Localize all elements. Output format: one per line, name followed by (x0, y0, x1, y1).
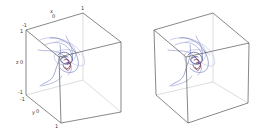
left-3d-plot: -1 0 1 x 1 0 -1 z -1 0 1 y (0, 0, 130, 131)
right-plot-canvas (130, 0, 260, 131)
box-back-edges (26, 13, 121, 112)
x-axis-label: x (50, 8, 53, 14)
z-tick-max: 1 (20, 28, 23, 34)
right-3d-plot (130, 0, 260, 131)
z-tick-mid: 0 (20, 59, 23, 65)
left-plot-canvas: -1 0 1 x 1 0 -1 z -1 0 1 y (0, 0, 130, 131)
z-tick-min: -1 (18, 89, 23, 95)
trajectories (38, 36, 85, 86)
y-tick-max: 1 (55, 123, 58, 129)
y-tick-min: -1 (20, 96, 25, 102)
y-tick-mid: 0 (36, 108, 39, 114)
x-tick-max: 1 (81, 5, 84, 11)
box-front-edges (26, 13, 121, 123)
y-axis-label: y (32, 109, 35, 116)
trajectories (168, 36, 215, 86)
z-axis-label: z (16, 59, 19, 65)
